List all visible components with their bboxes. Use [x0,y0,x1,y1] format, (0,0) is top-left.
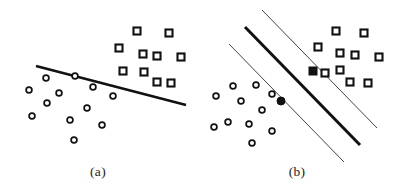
data-point-circle [238,98,244,104]
data-point-circle [259,107,265,113]
data-point-square [116,45,123,52]
data-point-square [333,28,340,35]
data-point-square [322,70,329,77]
data-point-square [337,67,344,74]
data-point-circle [90,84,96,90]
data-point-circle [269,128,275,134]
data-point-circle [84,105,90,111]
data-point-square [337,50,344,57]
data-point-circle [110,93,116,99]
data-point-circle [56,90,62,96]
data-point-square [140,51,147,58]
data-point-circle [269,91,275,97]
support-vector-square [309,67,317,75]
panel-a-group: (a) [26,28,186,180]
data-point-square [141,69,148,76]
data-point-circle [71,137,77,143]
data-point-circle [211,124,217,130]
data-point-circle [246,121,252,127]
data-point-circle [253,82,259,88]
data-point-square [376,54,383,61]
data-point-circle [67,117,73,123]
data-point-square [315,44,322,51]
support-vector-circle [277,97,285,105]
data-point-square [168,80,175,87]
panel-b-lines [229,10,377,162]
panel-b-group: (b) [211,10,382,179]
data-point-circle [230,83,236,89]
data-point-circle [249,140,255,146]
panel-a-caption: (a) [90,164,106,179]
data-point-square [361,30,368,37]
data-point-circle [213,93,219,99]
data-point-square [365,80,372,87]
data-point-square [134,28,141,35]
data-point-circle [99,122,105,128]
panel-b-caption: (b) [289,164,306,179]
figure-container: (a) (b) [0,0,394,191]
figure-svg: (a) (b) [0,0,394,191]
data-point-circle [72,73,78,79]
data-point-circle [29,113,35,119]
margin-boundary-lower [229,44,344,162]
data-point-circle [43,75,49,81]
data-point-square [178,54,185,61]
data-point-circle [44,100,50,106]
data-point-square [154,53,161,60]
data-point-square [154,79,161,86]
data-point-square [352,52,359,59]
data-point-circle [225,119,231,125]
data-point-circle [26,87,32,93]
data-point-square [166,30,173,37]
data-point-square [347,79,354,86]
maximum-margin-hyperplane [245,27,360,145]
margin-boundary-upper [262,10,377,128]
data-point-square [120,68,127,75]
